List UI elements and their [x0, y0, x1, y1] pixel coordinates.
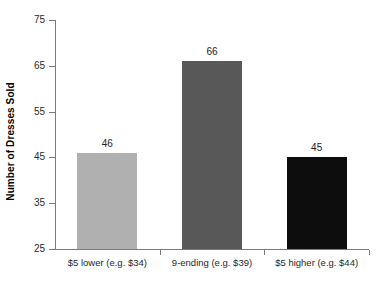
x-axis-line — [55, 249, 369, 250]
bar-value-label: 46 — [77, 139, 137, 149]
y-axis-tick-label: 75 — [1, 15, 45, 25]
bar-value-label: 45 — [287, 143, 347, 153]
x-axis-tick — [264, 250, 265, 255]
y-axis-title: Number of Dresses Sold — [0, 0, 20, 283]
x-axis-tick — [369, 250, 370, 255]
x-axis-tick — [160, 250, 161, 255]
bar-chart: Number of Dresses Sold 253545556575 4666… — [0, 0, 384, 283]
x-axis-category-label: 9-ending (e.g. $39) — [160, 258, 265, 268]
y-axis-tick — [49, 249, 55, 250]
bar — [77, 153, 137, 249]
y-axis-tick-label: 35 — [1, 198, 45, 208]
bar-value-label: 66 — [182, 47, 242, 57]
y-axis-tick-label: 45 — [1, 152, 45, 162]
y-axis-tick-label: 25 — [1, 244, 45, 254]
y-axis-tick-label: 55 — [1, 107, 45, 117]
bar — [287, 157, 347, 249]
y-axis-tick-label: 65 — [1, 61, 45, 71]
x-axis-category-label: $5 higher (e.g. $44) — [264, 258, 369, 268]
bar — [182, 61, 242, 249]
x-axis-category-label: $5 lower (e.g. $34) — [55, 258, 160, 268]
